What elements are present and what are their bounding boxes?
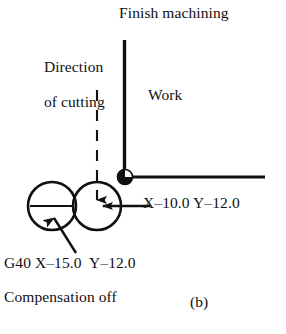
label-panel-letter: (b)	[190, 293, 208, 310]
label-direction-of-cutting: Direction of cutting	[28, 41, 105, 128]
label-work: Work	[148, 86, 182, 103]
label-direction-line-1: Direction	[44, 58, 103, 75]
label-compensation-off: Compensation off	[4, 288, 117, 305]
g40-leader-line	[54, 218, 76, 253]
label-finish-machining: Finish machining	[119, 4, 229, 21]
cnc-tool-compensation-diagram: Finish machining Direction of cutting Wo…	[0, 0, 286, 334]
label-g40-command: G40 X–15.0 Y–12.0	[4, 254, 136, 271]
label-tool-position-coordinates: X–10.0 Y–12.0	[143, 194, 240, 211]
origin-marker-icon	[117, 169, 132, 184]
label-direction-line-2: of cutting	[44, 93, 105, 110]
